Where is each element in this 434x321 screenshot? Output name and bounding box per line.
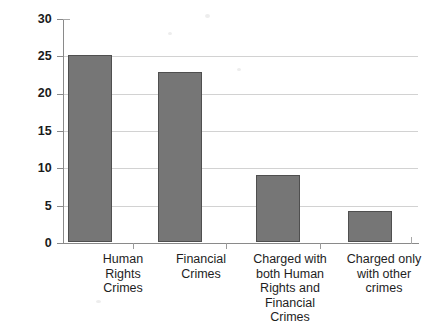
- y-tick-label-25: 25: [8, 49, 52, 63]
- gridline-10: [63, 168, 418, 169]
- plot-area: [63, 19, 418, 243]
- x-axis-labels: Human Rights Crimes Financial Crimes Cha…: [63, 252, 419, 321]
- y-axis-labels: 30 25 20 15 10 5 0: [0, 0, 52, 321]
- x-tick-mark-2: [226, 243, 227, 249]
- y-axis-top-cap: [63, 19, 70, 20]
- gridline-5: [63, 206, 418, 207]
- y-tick-label-10: 10: [8, 161, 52, 175]
- x-category-line: Financial: [221, 296, 359, 311]
- bar-financial-crimes: [158, 72, 202, 242]
- y-axis-line: [63, 19, 64, 244]
- y-tick-label-30: 30: [8, 12, 52, 26]
- x-tick-mark-1: [133, 243, 134, 249]
- y-tick-label-0: 0: [8, 236, 52, 250]
- bar-chart-figure: 30 25 20 15 10 5 0 Human Rights: [0, 0, 434, 321]
- bar-charged-with-both: [256, 175, 300, 242]
- bar-charged-only-other: [348, 211, 392, 242]
- gridline-25: [63, 56, 418, 57]
- scan-artifact: [205, 14, 210, 18]
- bar-human-rights-crimes: [68, 55, 112, 242]
- x-category-line: Charged only: [319, 252, 434, 267]
- y-tick-label-20: 20: [8, 86, 52, 100]
- x-tick-mark-3: [320, 243, 321, 249]
- x-axis-end-cap: [411, 237, 412, 244]
- y-tick-label-15: 15: [8, 124, 52, 138]
- y-tick-label-5: 5: [8, 199, 52, 213]
- x-axis-line: [63, 243, 419, 244]
- gridline-15: [63, 131, 418, 132]
- x-category-line: crimes: [319, 281, 434, 296]
- gridline-20: [63, 94, 418, 95]
- x-category-line: Crimes: [221, 310, 359, 321]
- x-category-label-charged-only-other: Charged only with other crimes: [319, 252, 434, 296]
- x-category-line: Crimes: [63, 281, 183, 296]
- x-category-line: with other: [319, 267, 434, 282]
